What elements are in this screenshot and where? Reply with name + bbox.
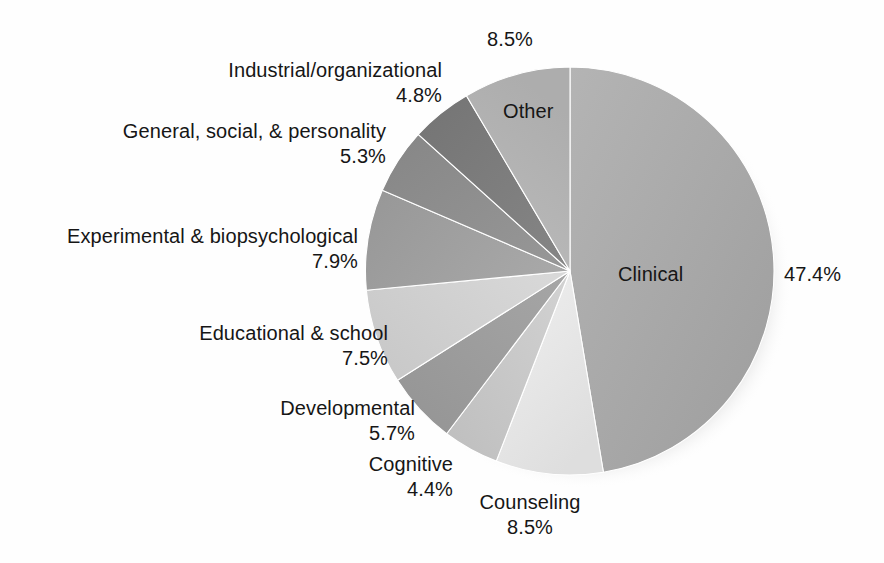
counseling-pct-text: 8.5% (440, 515, 620, 540)
experimental-pct-text: 7.9% (40, 249, 358, 274)
counseling-name-text: Counseling (479, 491, 580, 513)
clinical-pct-text: 47.4% (784, 263, 841, 285)
slice-label-cognitive: Cognitive 4.4% (250, 452, 453, 502)
clinical-name-text: Clinical (618, 263, 683, 285)
slice-label-counseling: Counseling 8.5% (440, 490, 620, 540)
slice-label-other-name: Other (503, 99, 613, 124)
slice-label-developmental: Developmental 5.7% (180, 396, 415, 446)
slice-label-general: General, social, & personality 5.3% (72, 119, 386, 169)
cognitive-pct-text: 4.4% (250, 477, 453, 502)
general-name-text: General, social, & personality (123, 120, 386, 142)
industrial-pct-text: 4.8% (140, 83, 442, 108)
developmental-name-text: Developmental (280, 397, 415, 419)
industrial-name-text: Industrial/organizational (228, 59, 442, 81)
general-pct-text: 5.3% (72, 144, 386, 169)
experimental-name-text: Experimental & biopsychological (67, 225, 358, 247)
slice-label-other-pct: 8.5% (455, 27, 565, 52)
slice-label-clinical-pct: 47.4% (784, 262, 884, 287)
developmental-pct-text: 5.7% (180, 421, 415, 446)
slice-label-experimental: Experimental & biopsychological 7.9% (40, 224, 358, 274)
slice-label-educational: Educational & school 7.5% (120, 321, 388, 371)
slice-label-clinical-name: Clinical (618, 262, 748, 287)
pie-chart-page: 8.5% Other Industrial/organizational 4.8… (0, 0, 884, 563)
slice-label-industrial: Industrial/organizational 4.8% (140, 58, 442, 108)
educational-pct-text: 7.5% (120, 346, 388, 371)
educational-name-text: Educational & school (199, 322, 388, 344)
other-name-text: Other (503, 100, 554, 122)
other-pct-text: 8.5% (487, 28, 533, 50)
cognitive-name-text: Cognitive (369, 453, 453, 475)
